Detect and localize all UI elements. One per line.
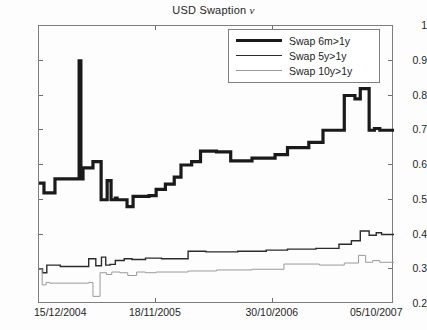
y-tick-label: 0.6 [397,158,427,170]
y-tick-label: 0.8 [397,89,427,101]
chart-title: USD Swaption ν [0,4,427,16]
legend-line-swatch-icon [236,39,282,42]
y-tick-label: 0.9 [397,54,427,66]
chart-title-symbol: ν [250,4,255,16]
y-tick-label: 0.3 [397,262,427,274]
chart-title-text: USD Swaption [172,4,246,16]
y-tick-label: 1 [397,19,427,31]
x-tick-label: 18/11/2005 [129,306,181,318]
legend-item[interactable]: Swap 5y>1y [233,48,375,63]
y-tick-label: 0.4 [397,228,427,240]
series-line [39,231,394,273]
y-tick-label: 0.5 [397,193,427,205]
y-tick-label: 0.7 [397,123,427,135]
legend-item-label: Swap 10y>1y [289,65,352,77]
chart-legend: Swap 6m>1ySwap 5y>1ySwap 10y>1y [228,29,380,83]
legend-item[interactable]: Swap 6m>1y [233,33,375,48]
legend-item-label: Swap 6m>1y [289,35,350,47]
legend-line-swatch-icon [236,70,282,71]
x-tick-label: 30/10/2006 [246,306,299,318]
x-tick-label: 05/10/2007 [350,306,403,318]
legend-item[interactable]: Swap 10y>1y [233,63,375,78]
x-tick-label: 15/12/2004 [34,306,87,318]
legend-item-label: Swap 5y>1y [289,50,347,62]
legend-line-swatch-icon [236,55,282,56]
chart-figure: USD Swaption ν 0.20.30.40.50.60.70.80.91… [0,0,427,330]
series-line [39,255,394,296]
